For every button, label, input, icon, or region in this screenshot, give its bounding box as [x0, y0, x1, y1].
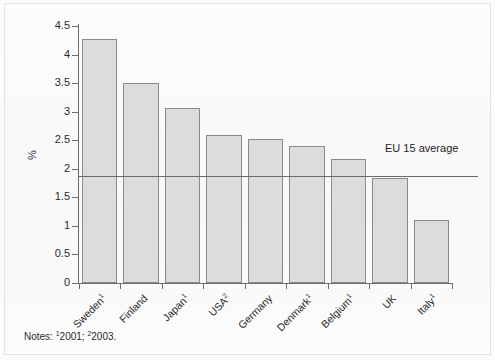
y-tick-label: 0 — [26, 277, 70, 289]
bar — [289, 146, 324, 283]
y-tick-label: 2.5 — [26, 134, 70, 146]
x-tick-mark — [203, 284, 204, 289]
y-tick-label: 1 — [26, 220, 70, 232]
x-tick-mark — [79, 284, 80, 289]
y-tick-mark — [72, 197, 79, 198]
bar — [248, 139, 283, 283]
y-tick-mark — [72, 55, 79, 56]
bar — [206, 135, 241, 283]
x-tick-mark — [245, 284, 246, 289]
y-tick-mark — [72, 26, 79, 27]
y-tick-label: 2 — [26, 163, 70, 175]
y-tick-mark — [72, 112, 79, 113]
y-tick-label: 3.5 — [26, 77, 70, 89]
bar — [331, 159, 366, 283]
y-tick-label: 0.5 — [26, 248, 70, 260]
y-tick-label-text: 3 — [30, 106, 70, 117]
y-tick-label-text: 2.5 — [30, 134, 70, 145]
x-tick-mark — [411, 284, 412, 289]
x-tick-mark — [452, 284, 453, 289]
bar — [123, 83, 158, 283]
bar — [165, 108, 200, 283]
bar — [372, 178, 407, 283]
bar — [82, 39, 117, 283]
y-tick-mark — [72, 169, 79, 170]
y-tick-label: 3 — [26, 106, 70, 118]
y-tick-label-text: 1 — [30, 220, 70, 231]
x-tick-mark — [162, 284, 163, 289]
y-tick-label-text: 0 — [30, 277, 70, 288]
y-tick-mark — [72, 283, 79, 284]
y-tick-label: 4.5 — [26, 20, 70, 32]
x-tick-mark — [328, 284, 329, 289]
figure-notes: Notes: 12001; 22003. — [24, 331, 116, 342]
y-tick-label: 4 — [26, 49, 70, 61]
note-marker-1: 1 — [56, 330, 60, 337]
y-tick-label-text: 0.5 — [30, 248, 70, 259]
y-tick-mark — [72, 254, 79, 255]
x-tick-mark — [286, 284, 287, 289]
y-tick-label-text: 2 — [30, 163, 70, 174]
x-tick-mark — [120, 284, 121, 289]
y-tick-label-text: 4 — [30, 49, 70, 60]
y-tick-label: 1.5 — [26, 191, 70, 203]
eu-average-label: EU 15 average — [385, 142, 458, 154]
chart-figure: % 00.511.522.533.544.5 EU 15 average Swe… — [0, 0, 495, 360]
y-tick-label-text: 4.5 — [30, 20, 70, 31]
x-axis-line — [78, 283, 453, 284]
y-tick-label-text: 1.5 — [30, 191, 70, 202]
y-tick-mark — [72, 140, 79, 141]
y-tick-label-text: 3.5 — [30, 77, 70, 88]
bar — [414, 220, 449, 283]
note-marker-2: 2 — [87, 330, 91, 337]
y-axis-line — [78, 24, 79, 284]
y-tick-mark — [72, 83, 79, 84]
eu-average-reference-line — [78, 176, 478, 177]
x-tick-mark — [369, 284, 370, 289]
y-tick-mark — [72, 226, 79, 227]
